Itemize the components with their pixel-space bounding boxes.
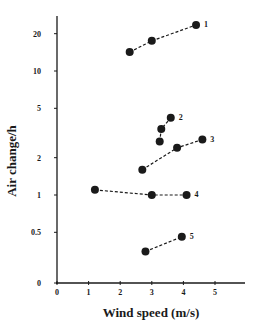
x-tick-label: 5 (213, 288, 217, 297)
series-label: 3 (210, 135, 214, 144)
series-line (130, 25, 196, 52)
series-label: 4 (195, 190, 199, 199)
y-tick-label: 10 (33, 67, 41, 76)
data-point (126, 48, 134, 56)
y-tick-label: 5 (37, 104, 41, 113)
y-axis-label: Air change/h (4, 124, 19, 196)
data-point (141, 248, 149, 256)
chart: 01234500.51251020 12345 Wind speed (m/s)… (0, 0, 260, 334)
data-point (192, 21, 200, 29)
series-line (145, 237, 181, 252)
series-2: 2 (156, 113, 183, 146)
data-point (148, 191, 156, 199)
x-tick-label: 3 (150, 288, 154, 297)
series-label: 5 (190, 232, 194, 241)
data-point (157, 125, 165, 133)
ticks: 01234500.51251020 (31, 30, 217, 297)
x-axis-label: Wind speed (m/s) (103, 305, 200, 320)
series-3: 3 (138, 135, 214, 174)
series-label: 2 (179, 113, 183, 122)
x-tick-label: 1 (87, 288, 91, 297)
series-5: 5 (141, 232, 193, 256)
data-point (178, 233, 186, 241)
x-tick-label: 0 (55, 288, 59, 297)
series-1: 1 (126, 20, 208, 56)
series-line (142, 140, 202, 170)
series-label: 1 (204, 20, 208, 29)
data-point (91, 186, 99, 194)
axes (56, 16, 245, 284)
x-tick-label: 2 (118, 288, 122, 297)
data-point (198, 136, 206, 144)
y-tick-label: 20 (33, 30, 41, 39)
y-tick-label: 1 (37, 191, 41, 200)
data-point (183, 191, 191, 199)
y-tick-label: 0.5 (31, 228, 41, 237)
data-point (173, 144, 181, 152)
x-tick-label: 4 (181, 288, 185, 297)
data-point (138, 166, 146, 174)
series-line (95, 190, 187, 195)
series-4: 4 (91, 186, 199, 199)
y-tick-label: 2 (37, 154, 41, 163)
data-point (156, 138, 164, 146)
data-point (167, 114, 175, 122)
data-point (148, 37, 156, 45)
data-series: 12345 (91, 20, 214, 256)
y-tick-label: 0 (37, 279, 41, 288)
